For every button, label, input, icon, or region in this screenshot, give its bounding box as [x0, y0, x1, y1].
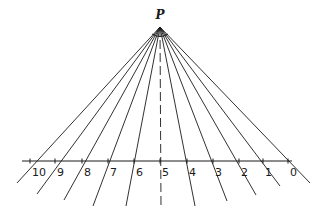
tick-label-6: 6 — [136, 166, 143, 179]
ray-5 — [160, 27, 161, 207]
ray-7 — [93, 27, 160, 206]
tick-label-8: 8 — [84, 166, 91, 179]
point-p-label: P — [154, 8, 165, 22]
tick-labels-group: 109876543210 — [32, 166, 297, 179]
tick-label-4: 4 — [189, 166, 196, 179]
tick-label-9: 9 — [57, 166, 64, 179]
ray-4 — [160, 27, 195, 206]
tick-label-3: 3 — [215, 166, 222, 179]
rays-group — [17, 27, 310, 207]
tick-label-10: 10 — [32, 166, 46, 179]
ray-10 — [17, 27, 160, 183]
ray-1 — [160, 27, 280, 186]
ray-diagram: 109876543210 P — [0, 0, 325, 214]
ray-6 — [126, 27, 160, 206]
tick-label-1: 1 — [265, 166, 272, 179]
tick-label-5: 5 — [162, 166, 169, 179]
tick-label-0: 0 — [290, 166, 297, 179]
tick-label-2: 2 — [241, 166, 248, 179]
tick-label-7: 7 — [110, 166, 117, 179]
